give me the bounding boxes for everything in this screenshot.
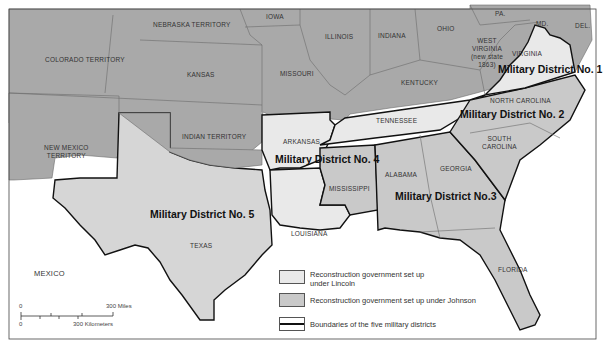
label-military-district-2: Military District No. 2 (460, 108, 564, 120)
legend-item-johnson: Reconstruction government set up under J… (279, 293, 476, 307)
label-south-carolina-line1: SOUTH (482, 135, 517, 143)
label-military-district-5: Military District No. 5 (150, 208, 254, 220)
label-military-district-3: Military District No.3 (395, 190, 497, 202)
label-nebraska-territory: NEBRASKA TERRITORY (153, 21, 231, 29)
label-virginia: VIRGINIA (512, 50, 542, 58)
reconstruction-map: NEBRASKA TERRITORY IOWA ILLINOIS INDIANA… (0, 0, 604, 356)
label-military-district-1: Military District No. 1 (498, 63, 602, 75)
scale-300-km: 300 Kilometers (73, 321, 113, 327)
legend-item-lincoln: Reconstruction government set up under L… (279, 270, 430, 288)
legend-label-lincoln: Reconstruction government set up under L… (310, 270, 430, 288)
label-military-district-4: Military District No. 4 (275, 153, 379, 165)
label-mississippi: MISSISSIPPI (329, 185, 370, 193)
label-south-carolina-line2: CAROLINA (482, 143, 517, 151)
label-new-mexico-line1: NEW MEXICO (44, 144, 89, 152)
scale-300-miles: 300 Miles (106, 303, 132, 309)
label-indiana: INDIANA (378, 32, 406, 40)
label-north-carolina: NORTH CAROLINA (490, 97, 551, 105)
label-ohio: OHIO (437, 25, 454, 33)
legend-swatch-lincoln (279, 270, 305, 284)
label-alabama: ALABAMA (385, 171, 417, 179)
label-mexico: MEXICO (34, 270, 65, 278)
label-colorado-territory: COLORADO TERRITORY (45, 56, 125, 64)
label-del: DEL. (575, 22, 590, 30)
legend-item-boundaries: Boundaries of the five military district… (279, 317, 436, 331)
label-kentucky: KENTUCKY (401, 79, 438, 87)
label-west-virginia-line2: VIRGINIA (467, 45, 507, 53)
label-south-carolina: SOUTH CAROLINA (482, 135, 517, 151)
label-illinois: ILLINOIS (325, 33, 353, 41)
label-missouri: MISSOURI (280, 70, 314, 78)
legend-label-boundaries: Boundaries of the five military district… (310, 317, 436, 329)
label-texas: TEXAS (190, 242, 212, 250)
label-new-mexico-territory: NEW MEXICO TERRITORY (44, 144, 89, 160)
label-kansas: KANSAS (187, 71, 215, 79)
label-tennessee: TENNESSEE (376, 117, 417, 125)
label-indian-territory: INDIAN TERRITORY (182, 133, 246, 141)
label-west-virginia-line1: WEST (467, 37, 507, 45)
label-louisiana: LOUISIANA (291, 230, 327, 238)
scale-zero-miles: 0 (19, 303, 22, 309)
scale-zero-km: 0 (19, 321, 22, 327)
label-md: MD. (536, 20, 549, 28)
label-arkansas: ARKANSAS (283, 138, 320, 146)
label-iowa: IOWA (266, 13, 284, 21)
label-west-virginia-line3: (new state (467, 53, 507, 61)
legend-swatch-boundaries (279, 317, 305, 331)
label-pa: PA. (495, 10, 506, 18)
label-new-mexico-line2: TERRITORY (44, 152, 89, 160)
label-florida: FLORIDA (498, 266, 528, 274)
legend-label-johnson: Reconstruction government set up under J… (310, 293, 476, 305)
legend-swatch-johnson (279, 293, 305, 307)
label-georgia: GEORGIA (440, 165, 472, 173)
